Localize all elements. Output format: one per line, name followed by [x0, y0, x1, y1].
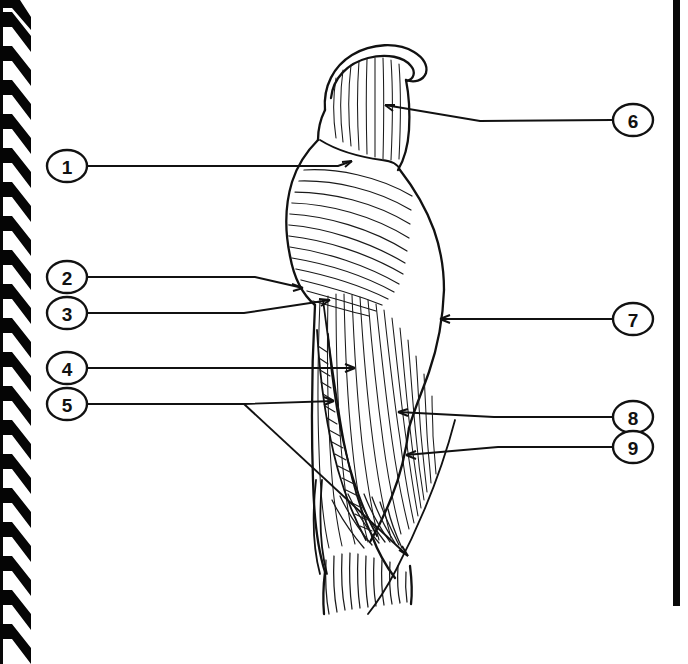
callout-2-number: 2	[62, 268, 73, 289]
figure-canvas: 1 2 3 4 5 6 7 8	[0, 0, 688, 664]
gluteal-fan-fibers	[289, 170, 412, 316]
callout-9-number: 9	[628, 438, 639, 459]
callout-4-number: 4	[62, 359, 73, 380]
callout-3[interactable]: 3	[47, 297, 87, 329]
callout-4[interactable]: 4	[47, 352, 87, 384]
leader-line-2	[88, 277, 303, 291]
callout-8-number: 8	[628, 408, 639, 429]
callout-9[interactable]: 9	[613, 431, 653, 463]
callout-3-number: 3	[62, 304, 73, 325]
callout-6-number: 6	[628, 111, 639, 132]
leader-line-1	[88, 161, 352, 167]
callout-6[interactable]: 6	[613, 104, 653, 136]
leader-line-9	[406, 447, 612, 459]
callout-5-number: 5	[62, 395, 73, 416]
callout-1[interactable]: 1	[47, 150, 87, 182]
leader-line-8	[398, 409, 612, 417]
leader-line-7	[440, 315, 612, 323]
worksheet-page: 1 2 3 4 5 6 7 8	[0, 0, 688, 664]
lower-leg-fibers	[326, 553, 407, 614]
leader-line-4	[88, 364, 355, 372]
leader-line-3	[88, 299, 330, 313]
callout-5[interactable]: 5	[47, 388, 87, 420]
right-page-edge	[673, 0, 680, 606]
binding-teeth-group	[0, 0, 31, 664]
callout-7-number: 7	[628, 310, 639, 331]
callout-1-number: 1	[62, 157, 73, 178]
leader-line-6	[385, 105, 612, 121]
lateral-leg-musculature	[286, 45, 455, 614]
oblique-band-hatching	[318, 346, 372, 531]
callout-2[interactable]: 2	[47, 261, 87, 293]
callout-8[interactable]: 8	[613, 401, 653, 433]
spiral-binding	[0, 0, 31, 664]
callout-7[interactable]: 7	[613, 303, 653, 335]
